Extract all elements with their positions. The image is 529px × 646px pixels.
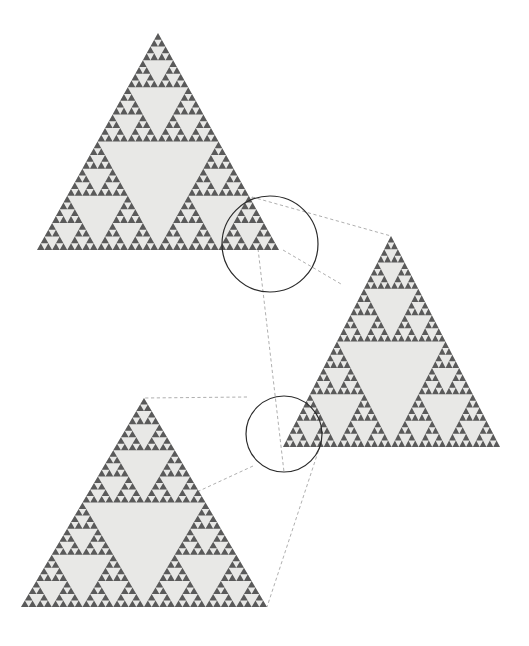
connector-2-lower <box>199 466 253 491</box>
sierpinski-triangle-top-left <box>37 33 279 250</box>
connector-2-upper <box>144 397 247 398</box>
sierpinski-triangle-bottom-left <box>21 398 267 607</box>
sierpinski-figure <box>0 0 529 646</box>
sierpinski-triangle-right <box>283 236 500 447</box>
connector-2-diagonal <box>267 440 322 607</box>
figure-canvas <box>0 0 529 646</box>
connector-1-upper <box>252 197 391 236</box>
triangles-layer <box>21 33 500 607</box>
